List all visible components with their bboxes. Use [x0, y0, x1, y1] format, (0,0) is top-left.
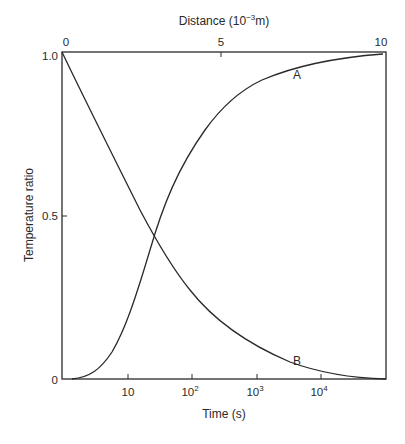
- bottom-tick-10: 10: [122, 386, 135, 398]
- curve-a: [72, 54, 383, 379]
- bottom-axis-title: Time (s): [202, 407, 246, 421]
- y-tick-1: 1.0: [42, 50, 58, 62]
- chart-canvas: Distance (10−3m) 0 5 10 1.0 0.5 0 Temper…: [0, 0, 405, 444]
- top-tick-0: 0: [63, 36, 69, 48]
- curve-a-label: A: [293, 68, 301, 82]
- bottom-tick-10000: 104: [310, 384, 328, 398]
- curve-b: [62, 52, 386, 379]
- bottom-tick-1000: 103: [246, 384, 264, 398]
- y-tick-05: 0.5: [42, 210, 58, 222]
- y-tick-0: 0: [52, 374, 58, 386]
- top-tick-5: 5: [218, 36, 224, 48]
- bottom-tick-100: 102: [181, 384, 199, 398]
- top-tick-10: 10: [375, 36, 388, 48]
- top-axis-title: Distance (10−3m): [179, 13, 270, 28]
- curve-b-label: B: [293, 354, 301, 368]
- plot-frame: [62, 52, 386, 379]
- y-axis-title: Temperature ratio: [22, 168, 36, 262]
